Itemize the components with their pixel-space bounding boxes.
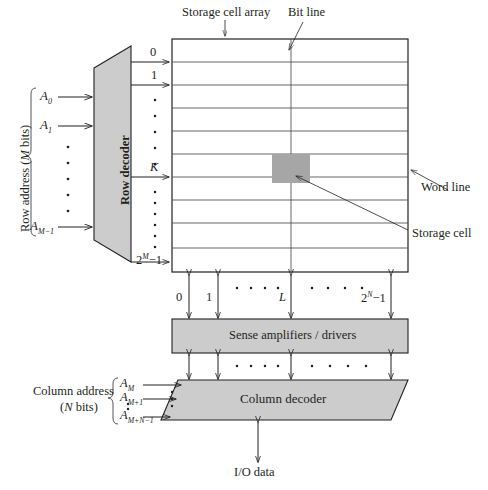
row-index-k: K [150,161,158,174]
row-index-0: 0 [150,46,156,59]
row-address-caption-tail: bits) [18,125,32,150]
storage-cell-highlight [272,154,310,183]
column-dots-upper [236,287,364,290]
row-address-input-am1: AM−1 [30,219,54,236]
column-decoder-label: Column decoder [240,392,326,405]
row-address-caption: Row address (M bits) [18,125,33,232]
column-index-l: L [279,291,286,304]
senseamp-to-coldecoder-arrows [189,355,391,379]
memory-array-diagram: Storage cell array Bit line Word line St… [0,0,488,490]
column-address-input-am1: AM+1 [120,391,143,406]
io-data-label: I/O data [234,466,275,479]
bit-line-label: Bit line [288,6,325,19]
row-index-last: 2M−1 [136,253,162,267]
column-index-0: 0 [176,291,182,304]
row-decoder-label: Row decoder [118,135,133,205]
row-address-dots [67,146,70,213]
row-address-caption-italic: M [18,150,32,160]
column-dots-lower [236,365,368,368]
word-line-label: Word line [421,181,470,194]
row-address-arrows [58,97,92,227]
storage-cell-label: Storage cell [412,227,471,240]
column-address-caption-line1: Column address [33,385,114,398]
column-index-last: 2N−1 [361,291,386,305]
column-address-caption-line2: (N bits) [60,401,98,414]
diagram-canvas [0,0,488,490]
row-address-input-a0: A0 [40,89,52,106]
row-address-input-a1: A1 [40,118,52,135]
column-index-1: 1 [206,291,212,304]
sense-amplifier-label: Sense amplifiers / drivers [229,329,356,342]
column-address-input-amn1: AM+N−1 [120,409,154,424]
storage-cell-array-label: Storage cell array [182,6,270,19]
row-index-1: 1 [151,69,157,82]
